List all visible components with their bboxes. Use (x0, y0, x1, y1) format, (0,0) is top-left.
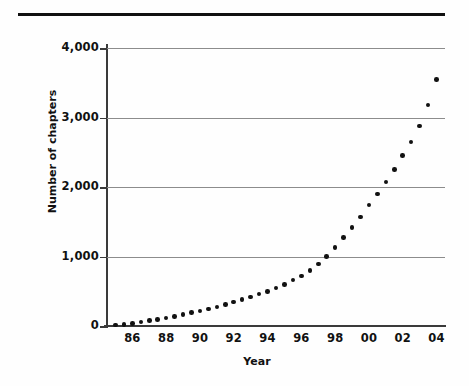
data-point (282, 282, 287, 287)
data-point (265, 289, 270, 294)
x-axis-tick-label: 88 (151, 331, 181, 345)
x-axis-title: Year (0, 355, 469, 368)
data-point (130, 321, 135, 326)
data-point (341, 235, 346, 240)
gridline (107, 118, 445, 119)
data-point (417, 124, 422, 129)
y-axis-tick (100, 326, 107, 328)
y-axis-tick-label: 2,000 (39, 179, 99, 193)
data-point (358, 215, 363, 220)
data-point (172, 314, 177, 319)
top-rule-divider (18, 13, 445, 16)
data-point (189, 310, 194, 315)
data-point (248, 295, 253, 300)
data-point (324, 254, 329, 259)
x-axis-tick-label: 92 (219, 331, 249, 345)
data-point (316, 262, 321, 267)
gridline (107, 48, 445, 49)
gridline (107, 257, 445, 258)
data-point (375, 192, 380, 197)
data-point (223, 302, 228, 307)
x-axis-tick-label: 00 (354, 331, 384, 345)
data-point (147, 318, 152, 323)
data-point (181, 312, 186, 317)
x-axis-tick-label: 04 (422, 331, 452, 345)
x-axis-tick-label: 90 (185, 331, 215, 345)
y-axis-tick (100, 48, 107, 50)
data-point (206, 307, 211, 312)
data-point (350, 225, 355, 230)
data-point (434, 77, 439, 82)
data-point (122, 322, 127, 327)
y-axis-tick (100, 257, 107, 259)
y-axis-tick (100, 187, 107, 189)
y-axis-tick-label: 4,000 (39, 40, 99, 54)
data-point (392, 167, 397, 172)
data-point (299, 274, 304, 279)
x-axis-tick-label: 96 (286, 331, 316, 345)
data-point (155, 317, 160, 322)
x-axis-tick-label: 94 (253, 331, 283, 345)
data-point (240, 297, 245, 302)
data-point (308, 268, 313, 273)
x-axis-tick-label: 86 (117, 331, 147, 345)
y-axis-title: Number of chapters (46, 52, 59, 252)
gridline (107, 187, 445, 188)
y-axis-tick-label: 0 (39, 318, 99, 332)
plot-area (107, 48, 445, 326)
y-axis-tick-label: 1,000 (39, 249, 99, 263)
y-axis-tick-label: 3,000 (39, 110, 99, 124)
x-axis-tick-label: 98 (320, 331, 350, 345)
chart-figure: Number of chapters Year 4,0003,0002,0001… (0, 0, 469, 386)
x-axis-tick-label: 02 (388, 331, 418, 345)
y-axis-tick (100, 118, 107, 120)
data-point (113, 323, 118, 328)
